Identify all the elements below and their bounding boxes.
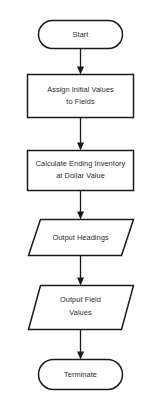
- node-terminate: Terminate: [39, 360, 123, 390]
- arrowhead-icon: [77, 67, 84, 75]
- node-output-field-values: Output Field Values: [29, 286, 134, 330]
- start-label: Start: [73, 30, 89, 39]
- flowchart-canvas: Start Assign Initial Values to Fields Ca…: [0, 0, 156, 408]
- connector-headings-to-values: [77, 256, 84, 286]
- flowchart-diagram: Start Assign Initial Values to Fields Ca…: [0, 0, 156, 408]
- output-headings-label: Output Headings: [52, 233, 108, 242]
- arrowhead-icon: [77, 278, 84, 286]
- connector-start-to-assign: [77, 49, 84, 75]
- connector-values-to-terminate: [77, 330, 84, 360]
- connector-assign-to-calculate: [77, 118, 84, 151]
- arrowhead-icon: [77, 143, 84, 151]
- node-calculate-ending-inventory: Calculate Ending Inventory at Dollar Val…: [28, 151, 134, 191]
- assign-initial-values-label-line-2: to Fields: [66, 97, 95, 106]
- terminate-label: Terminate: [64, 370, 97, 379]
- node-start: Start: [39, 21, 123, 49]
- assign-initial-values-label-line-1: Assign Initial Values: [47, 85, 114, 94]
- calculate-ending-inventory-label-line-1: Calculate Ending Inventory: [36, 159, 126, 168]
- arrowhead-icon: [77, 352, 84, 360]
- output-field-values-label-line-1: Output Field: [60, 295, 101, 304]
- connector-calculate-to-headings: [77, 191, 84, 220]
- node-output-headings: Output Headings: [29, 220, 134, 256]
- output-field-values-label-line-2: Values: [69, 308, 92, 317]
- arrowhead-icon: [77, 212, 84, 220]
- calculate-ending-inventory-label-line-2: at Dollar Value: [56, 171, 105, 180]
- node-assign-initial-values: Assign Initial Values to Fields: [28, 75, 134, 118]
